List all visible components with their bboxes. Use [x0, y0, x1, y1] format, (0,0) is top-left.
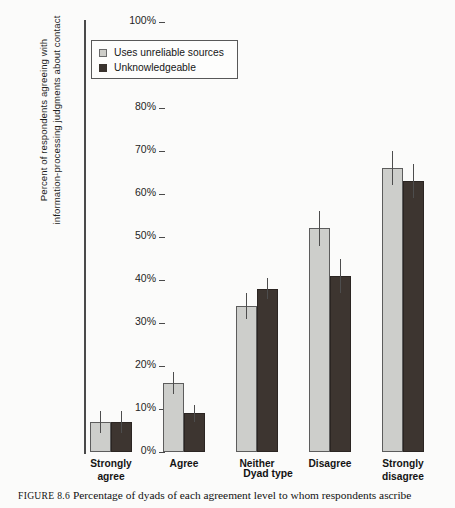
y-axis-title-line-1: Percent of respondents agreeing with — [37, 0, 50, 310]
y-axis-tick-label: 80% — [135, 100, 156, 112]
y-axis-tick-label: 0% — [141, 444, 156, 456]
y-axis-tick-label: 100% — [129, 14, 156, 26]
y-axis-tick-label: 40% — [135, 272, 156, 284]
bar-strongly-disagree-uses-unreliable-sources — [382, 168, 403, 452]
error-bar — [246, 293, 247, 319]
legend-label-1: Uses unreliable sources — [114, 47, 224, 58]
figure-8-6: Percent of respondents agreeing with inf… — [0, 0, 455, 508]
y-axis-title-line-2: information-processing judgments about c… — [50, 0, 63, 310]
error-bar — [121, 411, 122, 433]
error-bar — [319, 211, 320, 245]
error-bar — [194, 405, 195, 422]
bar-group-agree — [163, 22, 205, 452]
caption-text: Percentage of dyads of each agreement le… — [73, 489, 411, 501]
legend-label-2: Unknowledgeable — [114, 62, 196, 73]
bar-group-neither — [236, 22, 278, 452]
figure-caption: FIGURE 8.6 Percentage of dyads of each a… — [18, 488, 446, 503]
bar-neither-uses-unreliable-sources — [236, 306, 257, 452]
error-bar — [340, 259, 341, 293]
plot-area: 0%10%20%30%40%50%60%70%80%90%100%Strongl… — [84, 22, 452, 452]
legend-swatch-dark-icon — [99, 64, 107, 72]
error-bar — [100, 411, 101, 433]
legend-item-uses-unreliable-sources: Uses unreliable sources — [99, 45, 237, 60]
legend: Uses unreliable sources Unknowledgeable — [91, 40, 238, 79]
error-bar — [267, 278, 268, 300]
x-axis-title: Dyad type — [84, 468, 452, 479]
y-axis-tick-label: 70% — [135, 143, 156, 155]
error-bar — [392, 151, 393, 185]
bar-group-disagree — [309, 22, 351, 452]
bar-neither-unknowledgeable — [257, 289, 278, 452]
legend-item-unknowledgeable: Unknowledgeable — [99, 60, 237, 75]
y-axis-tick-label: 30% — [135, 315, 156, 327]
bar-group-strongly-agree — [90, 22, 132, 452]
y-axis-tick-label: 50% — [135, 229, 156, 241]
bar-disagree-unknowledgeable — [330, 276, 351, 452]
y-axis-tick-label: 60% — [135, 186, 156, 198]
bar-strongly-disagree-unknowledgeable — [403, 181, 424, 452]
y-axis-title: Percent of respondents agreeing with inf… — [37, 0, 77, 310]
legend-swatch-light-icon — [99, 49, 107, 57]
bar-group-strongly-disagree — [382, 22, 424, 452]
figure-number: FIGURE 8.6 — [18, 490, 70, 501]
error-bar — [173, 372, 174, 394]
y-axis-tick-label: 20% — [135, 358, 156, 370]
y-axis-tick-label: 10% — [135, 401, 156, 413]
bar-disagree-uses-unreliable-sources — [309, 228, 330, 452]
error-bar — [413, 164, 414, 198]
